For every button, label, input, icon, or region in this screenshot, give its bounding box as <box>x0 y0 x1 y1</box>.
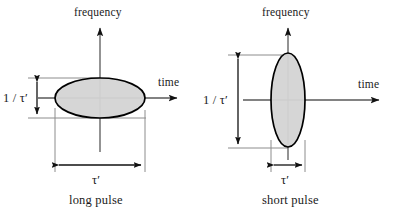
pulse-ellipse-long <box>55 78 145 118</box>
figure-canvas: frequency time 1 / τ′ τ′ long pulse freq… <box>0 0 395 222</box>
time-dimension-label-short: τ′ <box>281 173 289 188</box>
panel-long-pulse <box>28 28 177 172</box>
frequency-dimension-label-long: 1 / τ′ <box>3 91 28 106</box>
diagram-svg <box>0 0 395 222</box>
frequency-axis-label-short: frequency <box>262 6 310 18</box>
caption-short-pulse: short pulse <box>262 193 319 208</box>
time-axis-label-long: time <box>158 76 179 88</box>
frequency-axis-label-long: frequency <box>74 6 122 18</box>
frequency-dimension-label-short: 1 / τ′ <box>203 93 228 108</box>
panel-short-pulse <box>228 28 379 172</box>
time-axis-label-short: time <box>358 78 379 90</box>
caption-long-pulse: long pulse <box>69 193 123 208</box>
time-dimension-label-long: τ′ <box>92 173 100 188</box>
pulse-ellipse-short <box>271 53 305 147</box>
